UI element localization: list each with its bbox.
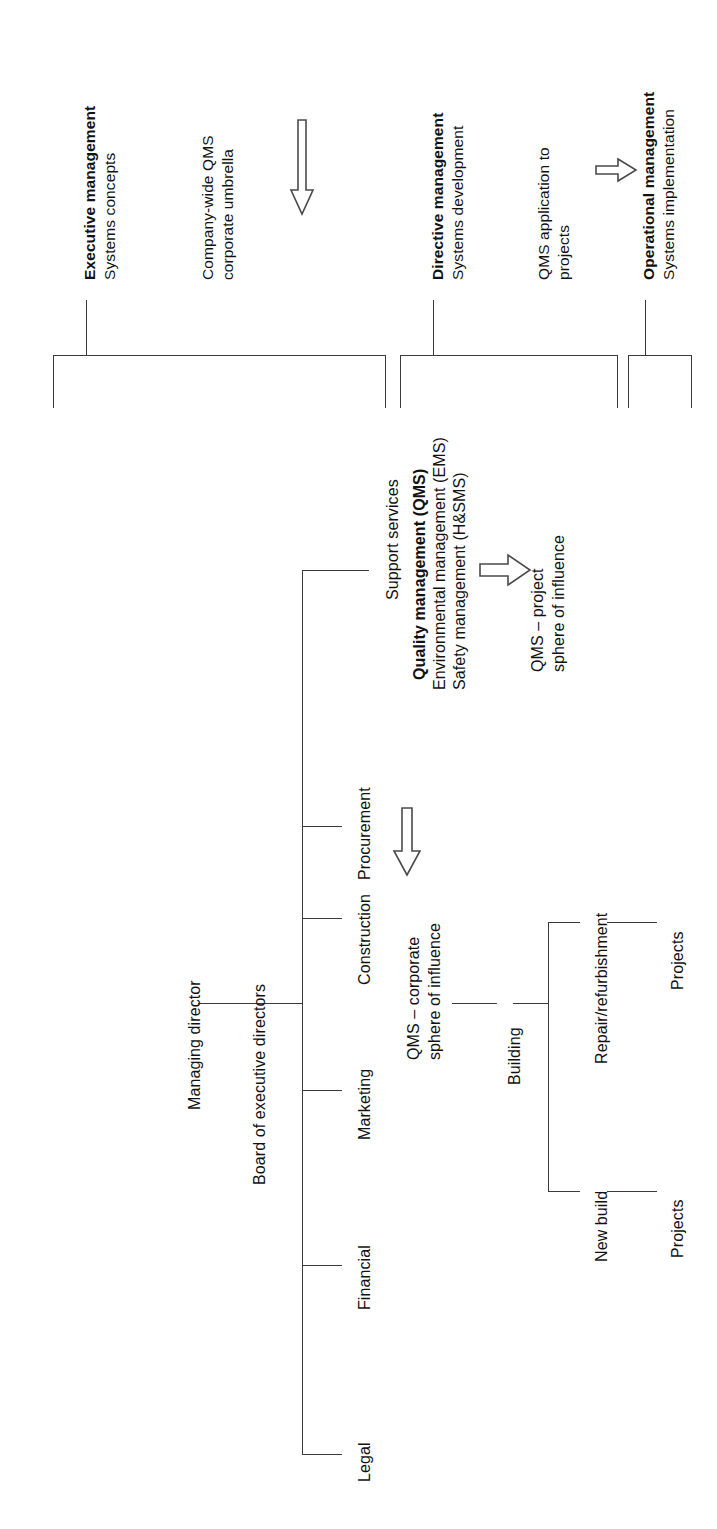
- board-label: Board of executive directors: [250, 984, 270, 1185]
- department-financial: Financial: [355, 1245, 375, 1310]
- branch-financial: [302, 1265, 342, 1266]
- building-bracket-spine: [548, 922, 549, 1192]
- level-heading-executive: Executive management: [80, 106, 99, 280]
- diagram-canvas: Executive management Systems concepts Co…: [0, 0, 717, 1529]
- department-construction: Construction: [355, 894, 375, 985]
- board-spine: [302, 570, 303, 1455]
- department-legal: Legal: [355, 1442, 375, 1482]
- annotation-project-sphere-line1: QMS – project: [528, 568, 548, 672]
- branch-construction: [302, 918, 342, 919]
- leaf-line-new-build-projects: [607, 1191, 657, 1192]
- branch-support-services: [302, 570, 369, 571]
- system-safety-management: Safety management (H&SMS): [450, 472, 470, 690]
- level-heading-directive: Directive management: [428, 113, 447, 280]
- bracket-stem-operational: [645, 300, 646, 356]
- scope-directive-line2: projects: [554, 225, 573, 280]
- scope-executive-line1: Company-wide QMS: [198, 135, 217, 280]
- arrow-down-icon-executive-to-directive: [288, 118, 316, 218]
- bracket-left-executive: [53, 355, 54, 408]
- bracket-right-operational: [691, 355, 692, 408]
- bracket-top-operational: [628, 355, 692, 356]
- leaf-repair-projects: Projects: [668, 931, 688, 990]
- level-heading-operational: Operational management: [639, 92, 658, 280]
- bracket-top-executive: [53, 355, 386, 356]
- leaf-line-repair-projects: [607, 922, 657, 923]
- building-feed-line: [452, 1003, 497, 1004]
- system-environmental-management: Environmental management (EMS): [430, 437, 450, 690]
- level-subheading-executive: Systems concepts: [100, 153, 119, 280]
- bracket-left-operational: [628, 355, 629, 408]
- branch-repair-refurbishment: [548, 922, 580, 923]
- building-branch-new-build: New build: [592, 1191, 612, 1262]
- building-branch-repair-refurbishment: Repair/refurbishment: [592, 913, 612, 1064]
- branch-new-build: [548, 1191, 580, 1192]
- branch-marketing: [302, 1090, 342, 1091]
- bracket-right-executive: [385, 355, 386, 408]
- managing-director-label: Managing director: [185, 980, 205, 1110]
- department-support-services: Support services: [383, 479, 403, 600]
- scope-executive-line2: corporate umbrella: [218, 149, 237, 280]
- arrow-right-icon-directive-to-operational: [594, 155, 638, 185]
- department-procurement: Procurement: [355, 787, 375, 880]
- bracket-stem-executive: [86, 300, 87, 356]
- annotation-corporate-sphere-line2: sphere of influence: [425, 923, 445, 1060]
- branch-legal: [302, 1454, 342, 1455]
- bracket-stem-directive: [433, 300, 434, 356]
- leaf-new-build-projects: Projects: [668, 1199, 688, 1258]
- bracket-left-directive: [400, 355, 401, 408]
- level-subheading-directive: Systems development: [448, 126, 467, 280]
- branch-procurement: [302, 826, 342, 827]
- system-quality-management: Quality management (QMS): [410, 469, 430, 680]
- bracket-right-directive: [617, 355, 618, 408]
- building-link-line: [513, 1003, 549, 1004]
- annotation-corporate-sphere-line1: QMS – corporate: [404, 937, 424, 1060]
- building-label: Building: [505, 1027, 525, 1085]
- arrow-down-icon-procurement-to-corporate-sphere: [392, 806, 422, 878]
- level-subheading-operational: Systems implementation: [659, 109, 678, 280]
- department-marketing: Marketing: [355, 1069, 375, 1140]
- arrow-right-icon-support-to-project-sphere: [478, 552, 533, 588]
- annotation-project-sphere-line2: sphere of influence: [549, 535, 569, 672]
- scope-directive-line1: QMS application to: [534, 147, 553, 280]
